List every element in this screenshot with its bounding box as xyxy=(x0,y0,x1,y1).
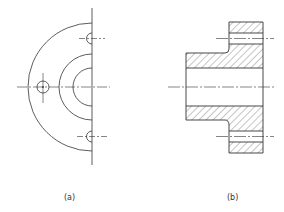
view-a-half-end-view xyxy=(17,8,110,165)
view-b-label: (b) xyxy=(227,193,238,202)
hatched-material xyxy=(186,22,263,153)
view-a-label: (a) xyxy=(64,193,75,202)
view-b-section-view xyxy=(168,22,276,153)
bolt-hole-center xyxy=(42,86,43,87)
section-outline xyxy=(186,22,263,153)
drawing-canvas xyxy=(0,0,284,212)
